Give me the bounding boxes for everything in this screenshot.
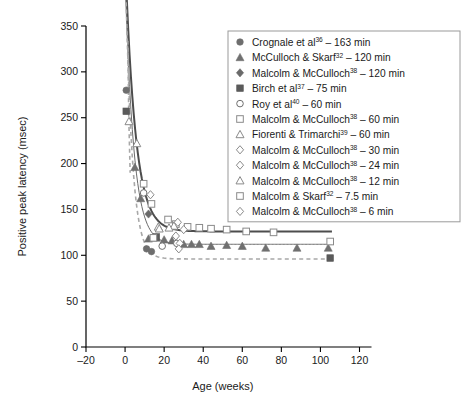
data-point	[270, 229, 277, 236]
data-point	[147, 191, 154, 199]
legend-item[interactable]: Malcolm & McCulloch38 – 24 min	[236, 160, 399, 172]
legend-item[interactable]: Roy et al40 – 60 min	[237, 98, 342, 110]
data-point	[165, 216, 172, 223]
legend-item[interactable]: Crognale et al36 – 163 min	[237, 36, 371, 48]
chart-svg: 050100150200250300350–20020406080100120 …	[0, 0, 468, 416]
y-tick-label: 50	[66, 295, 78, 307]
legend-label: Malcolm & McCulloch38 – 24 min	[252, 160, 399, 172]
data-point	[223, 241, 231, 248]
data-point	[148, 248, 155, 255]
legend-item[interactable]: Malcolm & McCulloch38 – 120 min	[236, 67, 404, 79]
legend-item[interactable]: Malcolm & McCulloch38 – 60 min	[237, 113, 399, 125]
legend-label: Fiorenti & Trimarchi39 – 60 min	[252, 129, 390, 141]
legend-label: Malcolm & McCulloch38 – 30 min	[252, 144, 399, 156]
x-tick-label: 60	[236, 354, 248, 366]
data-point	[159, 243, 166, 250]
data-point	[327, 238, 334, 245]
data-point	[148, 201, 155, 208]
data-point	[262, 244, 270, 251]
data-point	[223, 226, 230, 233]
legend-item[interactable]: Malcolm & Skarf32 – 7.5 min	[237, 190, 379, 202]
data-point	[133, 139, 141, 146]
legend-marker	[237, 100, 244, 107]
data-point	[196, 224, 203, 231]
y-tick-label: 250	[60, 111, 78, 123]
y-tick-label: 0	[72, 341, 78, 353]
data-point	[208, 225, 215, 232]
legend-label: Malcolm & McCulloch38 – 12 min	[252, 175, 399, 187]
y-axis-title: Positive peak latency (msec)	[16, 117, 28, 257]
x-tick-label: –20	[77, 354, 95, 366]
y-tick-label: 350	[60, 20, 78, 32]
legend-item[interactable]: Fiorenti & Trimarchi39 – 60 min	[236, 129, 390, 141]
legend-label: Crognale et al36 – 163 min	[252, 36, 370, 48]
y-tick-label: 100	[60, 249, 78, 261]
legend-label: Malcolm & Skarf32 – 7.5 min	[252, 190, 378, 202]
x-tick-label: 0	[122, 354, 128, 366]
legend[interactable]: Crognale et al36 – 163 minMcCulloch & Sk…	[228, 31, 460, 222]
data-point	[123, 108, 130, 115]
data-point	[238, 242, 246, 249]
legend-item[interactable]: Birch et al37 – 75 min	[237, 83, 347, 95]
legend-label: Malcolm & McCulloch38 – 6 min	[252, 206, 394, 218]
data-point	[207, 242, 215, 249]
data-point	[123, 87, 130, 94]
data-point	[243, 228, 250, 235]
data-point	[293, 244, 301, 251]
legend-item[interactable]: Malcolm & McCulloch38 – 6 min	[236, 206, 393, 218]
figure-root: 050100150200250300350–20020406080100120 …	[0, 0, 468, 416]
data-point	[327, 255, 334, 262]
x-tick-label: 40	[197, 354, 209, 366]
legend-marker	[237, 85, 244, 92]
series-10	[150, 235, 157, 242]
legend-label: Malcolm & McCulloch38 – 60 min	[252, 113, 399, 125]
legend-item[interactable]: Malcolm & McCulloch38 – 30 min	[236, 144, 399, 156]
legend-item[interactable]: Malcolm & McCulloch38 – 12 min	[236, 175, 399, 187]
legend-item[interactable]: McCulloch & Skarf32 – 120 min	[236, 52, 391, 64]
legend-marker	[237, 116, 244, 123]
y-tick-label: 300	[60, 65, 78, 77]
legend-label: Malcolm & McCulloch38 – 120 min	[252, 67, 405, 79]
data-point	[140, 180, 147, 187]
data-point	[150, 235, 157, 242]
y-tick-label: 150	[60, 203, 78, 215]
x-tick-label: 120	[351, 354, 369, 366]
legend-marker	[237, 193, 244, 200]
legend-label: McCulloch & Skarf32 – 120 min	[252, 52, 391, 64]
x-tick-label: 80	[276, 354, 288, 366]
legend-marker	[237, 39, 244, 46]
x-tick-label: 100	[312, 354, 330, 366]
data-point	[160, 236, 168, 243]
x-axis-title: Age (weeks)	[192, 380, 253, 392]
data-point	[140, 190, 147, 197]
y-tick-label: 200	[60, 157, 78, 169]
x-tick-label: 20	[158, 354, 170, 366]
